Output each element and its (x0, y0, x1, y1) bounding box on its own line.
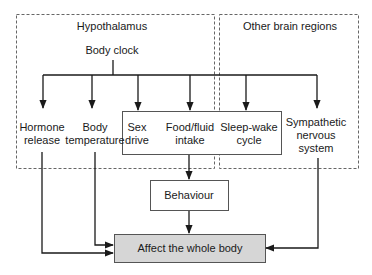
output-label-line: temperature (65, 134, 124, 147)
output-hormone-release: Hormone release (19, 121, 64, 147)
arrow-hormone-to-target (42, 152, 113, 253)
output-food-fluid-intake: Food/fluid intake (166, 121, 214, 147)
body-clock-label: Body clock (85, 44, 138, 57)
other-brain-regions-label: Other brain regions (243, 20, 337, 33)
behaviour-label: Behaviour (164, 189, 214, 202)
output-sympathetic-nervous-system: Sympathetic nervous system (286, 116, 347, 155)
target-label: Affect the whole body (138, 242, 243, 255)
output-label-line: Food/fluid (166, 121, 214, 134)
output-label-line: Sex (125, 121, 149, 134)
output-label-line: intake (166, 134, 214, 147)
output-label-line: release (19, 134, 64, 147)
output-sex-drive: Sex drive (125, 121, 149, 147)
output-label-line: drive (125, 134, 149, 147)
output-label-line: Body (65, 121, 124, 134)
arrow-temperature-to-target (95, 152, 113, 245)
output-label-line: system (286, 142, 347, 155)
output-label-line: Hormone (19, 121, 64, 134)
arrow-sympathetic-to-target (266, 158, 318, 248)
hypothalamus-label: Hypothalamus (77, 20, 147, 33)
output-label-line: Sleep-wake (220, 121, 277, 134)
output-body-temperature: Body temperature (65, 121, 124, 147)
output-label-line: cycle (220, 134, 277, 147)
output-sleep-wake-cycle: Sleep-wake cycle (220, 121, 277, 147)
output-label-line: nervous (286, 129, 347, 142)
output-label-line: Sympathetic (286, 116, 347, 129)
